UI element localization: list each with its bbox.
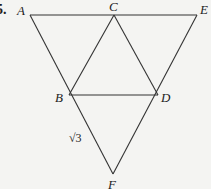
point-label-C: C (109, 0, 118, 14)
segment-length-label: √3 (69, 131, 82, 145)
problem-number: 5. (0, 2, 7, 17)
point-label-A: A (16, 3, 25, 18)
point-label-D: D (160, 90, 171, 105)
point-label-E: E (199, 2, 208, 17)
segment-CB (69, 15, 114, 95)
geometry-diagram: 5. A C E B D F √3 (0, 0, 211, 189)
point-label-B: B (55, 90, 63, 105)
segment-CD (114, 15, 158, 95)
point-label-F: F (107, 177, 117, 189)
